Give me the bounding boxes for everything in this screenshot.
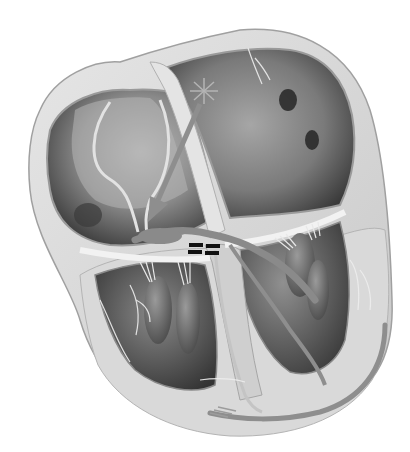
sa-node-star-icon (190, 78, 218, 104)
pulmonary-vein-ostium-2 (305, 130, 319, 150)
pulmonary-vein-ostium-1 (279, 89, 297, 111)
av-node (138, 228, 182, 244)
rv-papillary-muscle-1 (144, 276, 172, 344)
heart-svg (0, 0, 410, 452)
rv-papillary-muscle-2 (176, 282, 200, 354)
ra-ostium (74, 203, 102, 227)
heart-illustration (0, 0, 410, 452)
